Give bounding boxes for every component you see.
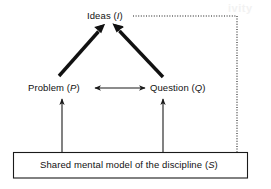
paren-close-shared: ) (215, 159, 218, 170)
paren-close-problem: ) (77, 82, 80, 93)
node-label-question: Question (Q) (150, 83, 206, 93)
node-text-problem: Problem (28, 82, 64, 93)
node-text-ideas: Ideas (87, 10, 111, 21)
node-label-shared-model: Shared mental model of the discipline (S… (40, 160, 218, 170)
paren-close-ideas: ) (120, 10, 123, 21)
node-label-ideas: Ideas (I) (87, 11, 123, 21)
node-text-shared-model: Shared mental model of the discipline (40, 159, 202, 170)
watermark: ivity (228, 2, 270, 18)
node-label-problem: Problem (P) (28, 83, 80, 93)
paren-close-question: ) (202, 82, 205, 93)
diagram-canvas: ivity Ideas (I) Problem (P) Question (Q)… (0, 0, 271, 189)
node-text-question: Question (150, 82, 189, 93)
edge-question-to-ideas (113, 24, 164, 78)
edge-problem-to-ideas (59, 24, 105, 76)
